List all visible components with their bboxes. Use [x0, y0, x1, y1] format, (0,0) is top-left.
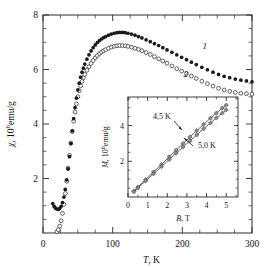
- data-point: [82, 66, 86, 70]
- data-point: [170, 64, 174, 68]
- data-point: [153, 55, 157, 59]
- figure-container: 01002003002468T, Kχ, 106emu/g1201234524B…: [0, 0, 270, 267]
- data-point: [144, 51, 148, 55]
- x-axis-label: T, K: [143, 255, 160, 265]
- data-point: [194, 77, 198, 81]
- data-point: [170, 50, 174, 54]
- data-point: [200, 79, 204, 83]
- data-point: [72, 117, 76, 121]
- data-point: [126, 31, 130, 35]
- data-point: [228, 76, 232, 80]
- data-point: [73, 110, 77, 114]
- data-point: [239, 91, 243, 95]
- data-point: [80, 70, 84, 74]
- data-point: [239, 78, 243, 82]
- data-point: [85, 68, 89, 72]
- data-point: [194, 63, 198, 67]
- data-point: [63, 192, 67, 196]
- data-point: [59, 204, 63, 208]
- y-tick-label: 4: [33, 119, 38, 129]
- data-point: [250, 80, 254, 84]
- data-point: [233, 77, 237, 81]
- data-point: [63, 188, 67, 192]
- data-point: [165, 48, 169, 52]
- data-point: [148, 40, 152, 44]
- data-point: [189, 74, 193, 78]
- data-point: [153, 42, 157, 46]
- data-point: [69, 142, 73, 146]
- data-point: [137, 35, 141, 39]
- data-point: [185, 58, 189, 62]
- data-point: [190, 60, 194, 64]
- data-point: [76, 88, 80, 92]
- x-tick-label: 100: [106, 239, 121, 249]
- data-point: [245, 79, 249, 83]
- inset-y-tick-label: 4: [120, 122, 124, 131]
- data-point: [75, 96, 79, 100]
- y-tick-label: 6: [33, 65, 38, 75]
- data-point: [130, 32, 134, 36]
- data-point: [66, 167, 70, 171]
- inset-x-tick-label: 1: [146, 201, 150, 210]
- data-point: [75, 102, 79, 106]
- data-point: [175, 53, 179, 57]
- data-point: [217, 86, 221, 90]
- data-point: [175, 67, 179, 71]
- chi-vs-temperature-figure: 01002003002468T, Kχ, 106emu/g1201234524B…: [0, 0, 270, 267]
- inset-x-tick-label: 0: [126, 201, 130, 210]
- data-point: [89, 49, 93, 53]
- curve-label-2: 2: [184, 69, 189, 79]
- data-point: [140, 49, 144, 53]
- inset-x-tick-label: 2: [165, 201, 169, 210]
- data-point: [65, 178, 69, 182]
- data-point: [144, 38, 148, 42]
- data-point: [68, 155, 72, 159]
- data-point: [222, 74, 226, 78]
- data-point: [180, 55, 184, 59]
- data-point: [211, 84, 215, 88]
- y-tick-label: 8: [33, 10, 38, 20]
- y-tick-label: 2: [33, 174, 38, 184]
- curve-label-1: 1: [202, 41, 207, 51]
- data-point: [79, 75, 83, 79]
- data-point: [206, 68, 210, 72]
- data-point: [87, 53, 91, 57]
- inset-x-tick-label: 3: [185, 201, 189, 210]
- inset-x-tick-label: 4: [205, 201, 209, 210]
- data-point: [165, 61, 169, 65]
- data-point: [61, 201, 65, 205]
- x-tick-label: 0: [41, 239, 46, 249]
- data-point: [77, 81, 81, 85]
- data-point: [85, 57, 89, 61]
- inset-x-axis-label: B, T: [176, 214, 190, 223]
- data-point: [157, 57, 161, 61]
- data-point: [148, 53, 152, 57]
- data-point: [62, 195, 66, 199]
- data-point: [133, 33, 137, 37]
- data-point: [61, 211, 65, 215]
- data-point: [222, 88, 226, 92]
- data-point: [73, 106, 77, 110]
- data-point: [161, 59, 165, 63]
- data-point: [211, 70, 215, 74]
- data-point: [200, 65, 204, 69]
- inset-annotation-4p5K: 4,5 K: [153, 112, 171, 121]
- inset-y-tick-label: 2: [120, 157, 124, 166]
- data-point: [250, 92, 254, 96]
- inset-y-axis-label: M, 106emu/g: [100, 126, 110, 169]
- data-point: [70, 129, 74, 133]
- data-point: [206, 82, 210, 86]
- data-point: [245, 92, 249, 96]
- data-point: [233, 90, 237, 94]
- data-point: [59, 219, 63, 223]
- data-point: [58, 224, 62, 228]
- data-point: [157, 44, 161, 48]
- inset-annotation-5p0K: 5,0 K: [198, 141, 216, 150]
- x-tick-label: 300: [245, 239, 260, 249]
- y-axis-label: χ, 106emu/g: [4, 101, 16, 148]
- data-point: [217, 73, 221, 77]
- data-point: [140, 36, 144, 40]
- x-tick-label: 200: [175, 239, 190, 249]
- inset-x-tick-label: 5: [224, 201, 228, 210]
- data-point: [161, 46, 165, 50]
